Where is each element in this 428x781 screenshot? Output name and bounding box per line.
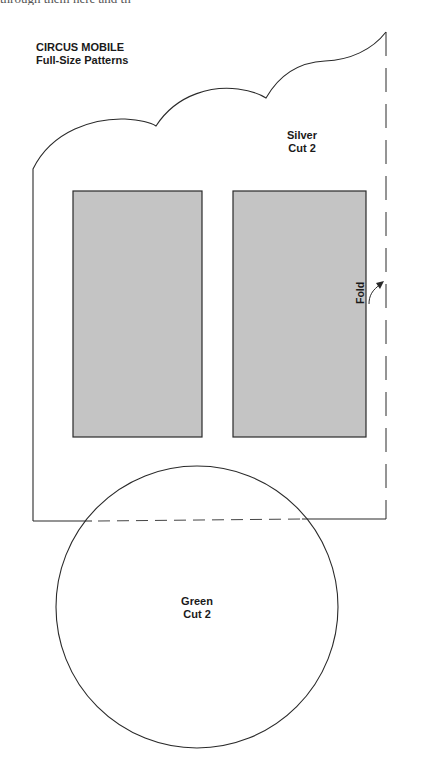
title-line-1: CIRCUS MOBILE [36, 41, 128, 54]
bottom-fold-line [98, 519, 302, 521]
pattern-page: through them here and th CIRCUS MOBILE F… [0, 0, 428, 781]
fold-label: Fold [354, 282, 367, 304]
green-piece-label: Green Cut 2 [177, 595, 217, 621]
green-cut-count: Cut 2 [177, 608, 217, 621]
title-line-2: Full-Size Patterns [36, 54, 128, 67]
right-window [233, 191, 366, 437]
pattern-title: CIRCUS MOBILE Full-Size Patterns [36, 41, 128, 67]
silver-cut-count: Cut 2 [282, 142, 322, 155]
fold-arrowhead-icon [376, 281, 384, 289]
pattern-drawing [0, 0, 428, 781]
green-color: Green [177, 595, 217, 608]
silver-piece-label: Silver Cut 2 [282, 129, 322, 155]
silver-color: Silver [282, 129, 322, 142]
left-window [73, 191, 202, 437]
